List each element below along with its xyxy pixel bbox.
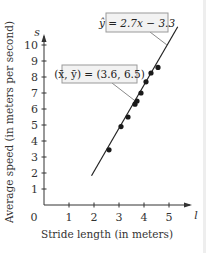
x-tick-label: 4 — [141, 211, 148, 224]
annotations: ŷ = 2.7x − 3.3(x̄, ȳ) = (3.6, 6.5) — [54, 13, 175, 100]
y-tick-label: 5 — [31, 119, 38, 132]
x-tick-label: 1 — [66, 211, 73, 224]
y-axis-symbol: s — [34, 26, 40, 39]
y-axis-arrow-icon — [42, 34, 47, 42]
x-axis-title: Stride length (in meters) — [41, 228, 173, 240]
y-tick-label: 1 — [31, 183, 38, 196]
mean-point-label: (x̄, ȳ) = (3.6, 6.5) — [54, 68, 144, 80]
y-tick-label: 6 — [31, 103, 38, 116]
y-axis-title: Average speed (in meters per second) — [3, 21, 15, 224]
x-tick-label: 5 — [166, 211, 173, 224]
x-tick-label: 2 — [91, 211, 98, 224]
scatter-plot: 12345123456789100ls ŷ = 2.7x − 3.3(x̄, ȳ… — [0, 0, 206, 253]
axes: 12345123456789100ls — [24, 26, 198, 224]
x-axis-symbol: l — [194, 209, 198, 222]
y-tick-label: 8 — [31, 71, 38, 84]
y-tick-label: 4 — [31, 135, 38, 148]
data-point — [125, 114, 130, 119]
y-tick-label: 3 — [31, 151, 38, 164]
data-point — [134, 98, 139, 103]
origin-label: 0 — [31, 211, 38, 224]
x-tick-label: 3 — [116, 211, 123, 224]
y-tick-label: 2 — [31, 167, 38, 180]
x-axis-arrow-icon — [184, 203, 192, 208]
data-point — [106, 147, 111, 152]
regression-equation-label: ŷ = 2.7x − 3.3 — [98, 17, 176, 29]
data-point — [148, 70, 153, 75]
y-tick-label: 10 — [24, 39, 38, 52]
data-point — [138, 90, 143, 95]
y-tick-label: 9 — [31, 55, 38, 68]
data-point — [155, 65, 160, 70]
data-point — [118, 124, 123, 129]
y-tick-label: 7 — [31, 87, 38, 100]
page-edge — [203, 0, 206, 253]
mean-leader-line — [112, 83, 134, 100]
regression-leader-line — [150, 32, 167, 45]
